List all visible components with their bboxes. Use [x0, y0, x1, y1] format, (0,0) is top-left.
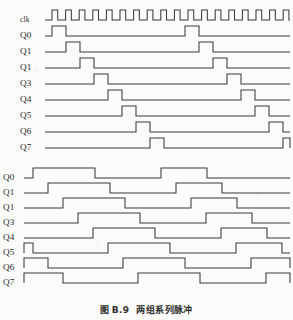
waveform-q3-4 — [45, 74, 290, 84]
waveform-q1-2 — [24, 198, 290, 208]
waveform-q5-5 — [24, 243, 290, 253]
signal-label-clk-0: clk — [20, 15, 30, 24]
waveform-q0-0 — [24, 168, 290, 178]
waveform-q1-2 — [45, 42, 290, 52]
signal-label-q0-0: Q0 — [3, 172, 15, 182]
waveform-q6-6 — [24, 258, 290, 268]
signal-label-q4-4: Q4 — [3, 232, 15, 242]
signal-label-q5-5: Q5 — [3, 247, 15, 257]
figure-page: clkQ0Q1Q1Q3Q4Q5Q6Q7 Q0Q1Q1Q3Q4Q5Q6Q7 图B.… — [0, 0, 293, 320]
signal-label-q1-2: Q1 — [3, 202, 15, 212]
signal-label-q6-6: Q6 — [3, 262, 15, 272]
waveform-q7-8 — [45, 138, 290, 148]
top-waveform-canvas: clkQ0Q1Q1Q3Q4Q5Q6Q7 — [0, 0, 293, 165]
signal-label-q6-7: Q6 — [20, 126, 32, 136]
waveform-q4-5 — [45, 90, 290, 100]
waveform-q6-7 — [45, 122, 290, 132]
bottom-timing-diagram: Q0Q1Q1Q3Q4Q5Q6Q7 — [0, 165, 293, 300]
signal-label-q4-5: Q4 — [20, 94, 32, 104]
bottom-signal-labels: Q0Q1Q1Q3Q4Q5Q6Q7 — [3, 172, 15, 287]
bottom-signal-waveforms — [24, 168, 290, 283]
signal-label-q1-2: Q1 — [20, 46, 32, 56]
bottom-waveform-canvas: Q0Q1Q1Q3Q4Q5Q6Q7 — [0, 165, 293, 300]
waveform-q7-7 — [24, 273, 290, 283]
signal-label-q0-1: Q0 — [20, 30, 32, 40]
signal-label-q5-6: Q5 — [20, 110, 32, 120]
top-signal-waveforms — [45, 10, 290, 148]
caption-text: 两组系列脉冲 — [136, 305, 192, 315]
signal-label-q1-3: Q1 — [20, 62, 32, 72]
signal-label-q1-1: Q1 — [3, 187, 15, 197]
figure-caption: 图B.9两组系列脉冲 — [0, 304, 293, 320]
signal-label-q3-4: Q3 — [20, 78, 32, 88]
top-timing-diagram: clkQ0Q1Q1Q3Q4Q5Q6Q7 — [0, 0, 293, 165]
waveform-clk-0 — [45, 10, 290, 20]
signal-label-q7-7: Q7 — [3, 277, 15, 287]
waveform-q5-6 — [45, 106, 290, 116]
waveform-q1-1 — [24, 183, 290, 193]
signal-label-q7-8: Q7 — [20, 142, 32, 152]
signal-label-q3-3: Q3 — [3, 217, 15, 227]
waveform-q0-1 — [45, 26, 290, 36]
waveform-q4-4 — [24, 228, 290, 238]
caption-number: B.9 — [112, 305, 130, 315]
waveform-q3-3 — [24, 213, 290, 223]
caption-prefix: 图 — [100, 305, 109, 315]
top-signal-labels: clkQ0Q1Q1Q3Q4Q5Q6Q7 — [20, 15, 32, 152]
waveform-q1-3 — [45, 58, 290, 68]
